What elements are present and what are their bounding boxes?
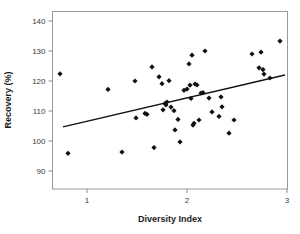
y-tick-label: 90: [37, 167, 46, 176]
y-tick-label: 120: [32, 77, 46, 86]
chart-canvas: 90100110120130140 123 Diversity Index Re…: [0, 0, 300, 234]
y-axis-label: Recovery (%): [3, 71, 13, 128]
x-tick-label: 3: [285, 196, 290, 205]
chart-background: [0, 0, 300, 234]
x-axis-label: Diversity Index: [138, 214, 202, 224]
y-tick-label: 130: [32, 47, 46, 56]
scatter-chart-figure: 90100110120130140 123 Diversity Index Re…: [0, 0, 300, 234]
x-tick-label: 1: [85, 196, 90, 205]
y-tick-label: 110: [33, 107, 46, 116]
x-tick-label: 2: [185, 196, 190, 205]
y-tick-label: 140: [32, 17, 46, 26]
y-tick-label: 100: [32, 137, 46, 146]
